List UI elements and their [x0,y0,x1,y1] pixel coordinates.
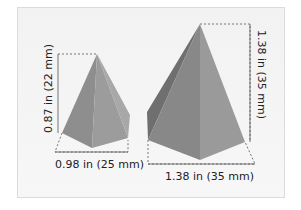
small-height-label: 0.87 in (22 mm) [42,44,55,133]
small-pyramid [55,54,130,152]
large-width-label: 1.38 in (35 mm) [165,170,254,183]
large-pyramid [147,24,255,164]
pyramid-diagram: 0.87 in (22 mm) 0.98 in (25 mm) 1.38 in … [0,0,301,210]
small-width-label: 0.98 in (25 mm) [55,158,144,171]
large-height-label: 1.38 in (35 mm) [255,30,268,119]
